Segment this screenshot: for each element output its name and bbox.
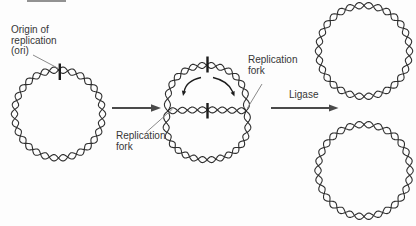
ligase-label: Ligase — [289, 90, 318, 101]
arrow-head — [231, 91, 235, 96]
fork-direction-arrow-right — [213, 78, 233, 93]
parent-dna-circle — [11, 64, 105, 161]
arrow-head — [182, 91, 186, 96]
replication-fork-label-left: Replication fork — [116, 131, 165, 152]
ligase-arrow — [271, 105, 339, 112]
theta-replication-intermediate — [163, 57, 251, 163]
daughter-dna-circle-bottom — [315, 122, 413, 220]
origin-of-replication-label: Origin of replication (ori) — [11, 25, 57, 57]
arrow-head — [329, 105, 339, 112]
dna-replication-diagram — [0, 0, 416, 226]
fork-pointer-line-right — [248, 84, 263, 108]
figure-canvas: Origin of replication (ori) Replication … — [0, 0, 416, 226]
dna-strand — [163, 111, 250, 163]
ori-pointer-line — [33, 55, 59, 69]
daughter-dna-circle-top — [315, 3, 412, 100]
arrow-head — [151, 104, 161, 111]
flow-arrow — [112, 104, 161, 111]
cropped-content-fragment — [27, 0, 66, 2]
dna-strand — [164, 111, 251, 163]
replication-fork-label-right: Replication fork — [248, 55, 297, 76]
fork-direction-arrow-left — [184, 78, 201, 92]
